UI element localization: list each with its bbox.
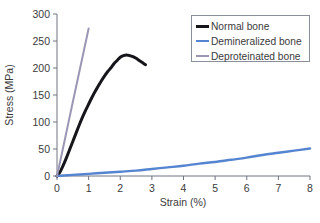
line-swatch-gray-icon [196, 55, 209, 57]
legend-label-deproteinated-bone: Deproteinated bone [211, 51, 301, 62]
y-tick-label: 100 [32, 116, 50, 128]
x-tick-label: 5 [212, 182, 218, 194]
legend-item-demineralized-bone: Demineralized bone [196, 34, 309, 48]
y-tick-label: 250 [32, 35, 50, 47]
y-axis-tick-labels: 050100150200250300 [32, 8, 50, 182]
series-line-deproteinated-bone [57, 29, 89, 176]
y-tick-label: 200 [32, 62, 50, 74]
x-tick-label: 4 [181, 182, 187, 194]
x-tick-label: 7 [275, 182, 281, 194]
x-axis-ticks [57, 176, 310, 180]
legend-label-demineralized-bone: Demineralized bone [211, 36, 302, 47]
line-swatch-black-icon [196, 25, 209, 28]
x-axis-tick-labels: 012345678 [54, 182, 313, 194]
x-tick-label: 6 [244, 182, 250, 194]
legend-label-normal-bone: Normal bone [211, 21, 269, 32]
y-axis-title: Stress (MPa) [3, 64, 15, 125]
y-tick-label: 50 [38, 143, 50, 155]
line-swatch-blue-icon [196, 40, 209, 43]
legend-item-deproteinated-bone: Deproteinated bone [196, 49, 309, 63]
chart-legend: Normal bone Demineralized bone Deprotein… [191, 15, 310, 62]
y-tick-label: 300 [32, 8, 50, 20]
y-tick-label: 150 [32, 89, 50, 101]
x-tick-label: 3 [149, 182, 155, 194]
stress-strain-chart: 012345678 050100150200250300 Strain (%) … [0, 0, 320, 223]
series-line-demineralized-bone [57, 148, 310, 176]
legend-item-normal-bone: Normal bone [196, 19, 309, 33]
x-tick-label: 0 [54, 182, 60, 194]
x-axis-title: Strain (%) [160, 196, 207, 208]
y-axis-ticks [53, 14, 57, 176]
y-tick-label: 0 [44, 170, 50, 182]
x-tick-label: 1 [86, 182, 92, 194]
x-tick-label: 2 [117, 182, 123, 194]
x-tick-label: 8 [307, 182, 313, 194]
